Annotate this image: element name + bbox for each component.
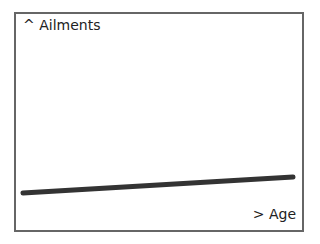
- chart-plot: [0, 0, 320, 244]
- trend-line: [23, 177, 293, 193]
